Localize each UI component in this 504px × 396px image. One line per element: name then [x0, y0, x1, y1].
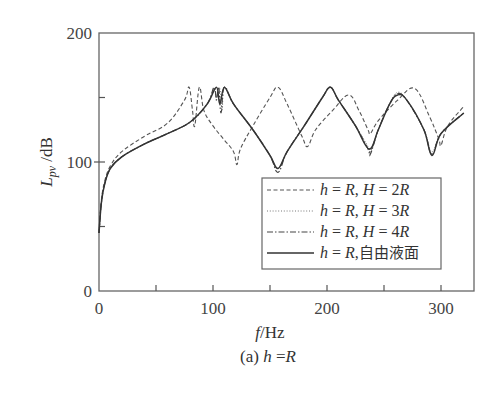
x-tick-300: 300 — [428, 299, 454, 318]
legend-label: h = R, H = 4R — [320, 223, 409, 240]
legend-label: h = R, H = 3R — [320, 202, 409, 219]
y-tick-100: 100 — [67, 153, 93, 172]
legend-label: h = R,自由液面 — [320, 244, 419, 262]
y-axis-title: Lpv /dB — [37, 137, 59, 188]
x-tick-100: 100 — [200, 299, 226, 318]
x-axis-title: f/Hz — [255, 323, 285, 342]
y-tick-200: 200 — [67, 24, 93, 43]
legend-label: h = R, H = 2R — [320, 181, 409, 198]
chart-figure: 0 100 200 300 0 100 200 f/Hz Lpv /dB h =… — [0, 0, 504, 396]
x-tick-0: 0 — [95, 299, 104, 318]
y-tick-labels: 0 100 200 — [67, 24, 93, 301]
x-tick-200: 200 — [314, 299, 340, 318]
figure-caption: (a) h =R — [240, 347, 296, 366]
y-tick-0: 0 — [84, 282, 93, 301]
legend: h = R, H = 2Rh = R, H = 3Rh = R, H = 4Rh… — [262, 178, 441, 269]
x-tick-labels: 0 100 200 300 — [95, 299, 454, 318]
